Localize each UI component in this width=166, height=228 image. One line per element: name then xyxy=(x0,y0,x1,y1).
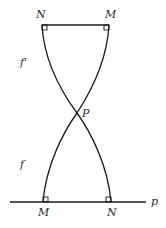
label-p-intersection: P xyxy=(81,107,90,120)
label-bottom-m: M xyxy=(37,206,50,219)
label-curve-f: f xyxy=(19,158,26,171)
label-top-n: N xyxy=(35,8,46,21)
label-curve-f-prime: f' xyxy=(19,56,27,69)
label-bottom-n: N xyxy=(106,206,117,219)
label-line-p: p xyxy=(151,195,158,208)
curve-f-prime-right xyxy=(43,25,109,202)
label-top-m: M xyxy=(104,8,117,21)
geometry-diagram: N M P M N p f' f xyxy=(0,0,166,228)
